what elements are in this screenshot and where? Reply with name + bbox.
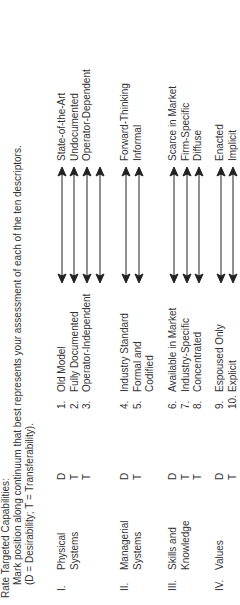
right-descriptors: Scarce in Market Firm-Specific Diffuse [167, 86, 205, 161]
descriptor-7-right: Firm-Specific [180, 86, 193, 161]
right-descriptors: Forward-Thinking Informal [119, 83, 144, 161]
continuum-arrows[interactable] [214, 0, 240, 605]
descriptor-10-right: Implicit [227, 124, 240, 161]
descriptor-5-right: Informal [132, 83, 145, 161]
right-descriptors: Enacted Implicit [214, 124, 239, 161]
rotated-document-page: Rate Targeted Capabilities: Mark positio… [0, 0, 240, 605]
legend-text: (D = Desirability; T = Transferability). [24, 423, 37, 585]
form-title: Rate Targeted Capabilities: [0, 478, 13, 598]
descriptor-4-right: Forward-Thinking [119, 83, 132, 161]
descriptor-1-right: State-of-the-Art [56, 69, 69, 161]
instruction-text: Mark position along continuum that best … [12, 145, 25, 585]
descriptor-8-right: Diffuse [192, 86, 205, 161]
descriptor-9-right: Enacted [214, 124, 227, 161]
descriptor-3-right: Operator-Dependent [81, 69, 94, 161]
right-descriptors: State-of-the-Art Undocumented Operator-D… [56, 69, 94, 161]
descriptor-2-right: Undocumented [69, 69, 82, 161]
descriptor-6-right: Scarce in Market [167, 86, 180, 161]
